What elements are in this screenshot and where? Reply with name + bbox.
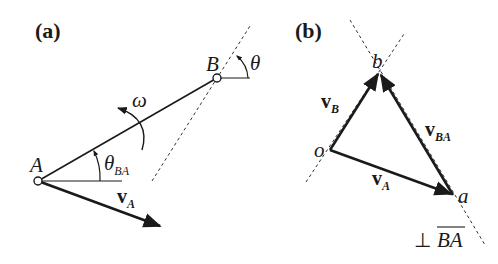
point-A-label: A [28, 153, 43, 177]
angle-arc-theta [237, 56, 248, 78]
kinematics-diagram: (a) A B ω θBA θ vA (b) [0, 0, 498, 264]
panel-a: (a) A B ω θBA θ vA [28, 18, 260, 226]
panel-a-label: (a) [35, 18, 61, 43]
panel-b-label: (b) [295, 18, 322, 43]
joint-A-icon [34, 177, 42, 185]
point-a-label: a [458, 184, 469, 208]
point-o-label: o [314, 138, 325, 162]
panel-b: (b) b o a vB vA vBA ⊥ BA [295, 18, 485, 252]
vA-label: vA [117, 185, 135, 211]
vBA-label: vBA [425, 118, 451, 144]
perpendicular-BA-label: BA [437, 228, 463, 252]
dashed-line-perp-BA [350, 20, 485, 245]
theta-label: θ [250, 51, 260, 75]
theta-BA-label: θBA [104, 151, 130, 178]
vB-label: vB [321, 90, 339, 116]
point-b-label: b [372, 49, 383, 73]
perpendicular-symbol: ⊥ [414, 229, 431, 251]
angle-arc-theta-BA [94, 151, 100, 181]
velocity-vector-vA [38, 181, 160, 226]
point-B-label: B [206, 52, 219, 76]
omega-rotation-arrow [118, 108, 144, 150]
velocity-vector-vA-polygon [330, 150, 451, 194]
perpendicular-dashed-line [152, 26, 250, 181]
omega-label: ω [132, 88, 147, 112]
